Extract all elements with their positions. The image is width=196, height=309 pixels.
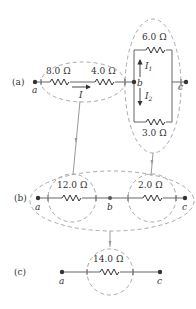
resistor-4ohm	[95, 79, 114, 85]
node-a	[33, 80, 37, 84]
node-a-label: a	[32, 85, 37, 95]
panel-c: (c) 14.0 Ω a c	[14, 249, 162, 295]
node-b	[132, 80, 136, 84]
current-i1-label: I1	[144, 61, 152, 72]
resistor-14ohm-label: 14.0 Ω	[93, 254, 123, 264]
node-a	[36, 196, 40, 200]
node-c-label: c	[182, 202, 187, 212]
arrow-head-icon	[151, 160, 154, 165]
panel-c-label: (c)	[14, 267, 26, 277]
panel-b: (b) 12.0 Ω 2.0 Ω a b c	[14, 171, 194, 231]
series-group-outline	[30, 171, 194, 231]
resistor-14ohm	[100, 269, 119, 275]
panel-b-label: (b)	[14, 193, 27, 203]
node-b	[108, 196, 112, 200]
current-i2-label: I2	[144, 91, 153, 102]
resistor-2ohm-label: 2.0 Ω	[138, 180, 163, 190]
node-c	[183, 196, 187, 200]
arrow-head-icon	[75, 138, 78, 143]
wire	[166, 50, 172, 82]
node-a-label: a	[59, 276, 64, 286]
panel-a: (a) I 8.0 Ω 4.0 Ω 6.0 Ω 3.0 Ω I1 I2 a	[12, 19, 188, 153]
node-c	[158, 270, 162, 274]
resistor-6ohm-label: 6.0 Ω	[142, 32, 167, 42]
resistor-8ohm-label: 8.0 Ω	[46, 66, 71, 76]
node-c-label: c	[157, 276, 162, 286]
node-a-label: a	[35, 202, 40, 212]
resistor-3ohm	[146, 119, 165, 125]
resistor-4ohm-label: 4.0 Ω	[91, 66, 116, 76]
resistor-6ohm	[146, 47, 165, 53]
node-c	[184, 80, 188, 84]
node-a	[60, 270, 64, 274]
resistor-3ohm-label: 3.0 Ω	[142, 128, 167, 138]
node-b-label: b	[107, 202, 113, 212]
resistor-12ohm	[62, 195, 81, 201]
resistor-12ohm-label: 12.0 Ω	[57, 180, 87, 190]
node-b-label: b	[137, 78, 143, 88]
resistor-2ohm	[143, 195, 162, 201]
wire	[166, 82, 172, 122]
current-label: I	[78, 90, 83, 100]
panel-a-label: (a)	[12, 77, 24, 87]
circuit-diagram: (a) I 8.0 Ω 4.0 Ω 6.0 Ω 3.0 Ω I1 I2 a	[0, 0, 196, 309]
resistor-8ohm	[50, 79, 69, 85]
arrow-head-icon	[109, 241, 112, 246]
